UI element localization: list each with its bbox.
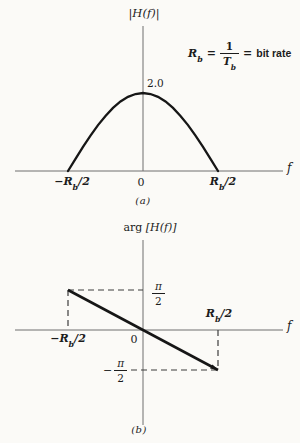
xtick-pos-rb2-a: Rb/2 xyxy=(210,176,236,188)
annot-eq1: = xyxy=(207,48,216,60)
freq-axis-label-b: f xyxy=(287,320,291,333)
xtick-neg-rb2-a: −Rb/2 xyxy=(54,176,90,188)
magnitude-title: |H(f)| xyxy=(128,7,159,19)
origin-label-b: 0 xyxy=(131,334,138,346)
caption-b: (b) xyxy=(131,425,147,436)
origin-label-a: 0 xyxy=(138,177,145,189)
bit-rate-annotation: Rb = 1 Tb = bit rate xyxy=(188,41,291,66)
ytick-pi-over-2: π2 xyxy=(152,281,165,306)
xtick-pos-rb2-b: Rb/2 xyxy=(206,308,232,320)
ytick-neg-pi-over-2: −π2 xyxy=(103,358,127,383)
annot-R: Rb xyxy=(188,48,203,60)
phase-title: arg [H(f)] xyxy=(123,222,176,234)
peak-value-label: 2.0 xyxy=(147,78,164,89)
freq-axis-label-a: f xyxy=(287,162,291,175)
magnitude-plot xyxy=(0,0,300,220)
phase-plot xyxy=(0,220,300,443)
xtick-neg-rb2-b: −Rb/2 xyxy=(50,333,86,345)
annot-eq2: = xyxy=(243,48,252,60)
annot-fraction: 1 Tb xyxy=(220,41,239,66)
figure-transfer-function: |H(f)| Rb = 1 Tb = bit rate 2.0 −Rb/2 0 … xyxy=(0,0,300,443)
annot-bit-rate: bit rate xyxy=(256,48,291,59)
caption-a: (a) xyxy=(135,196,150,207)
